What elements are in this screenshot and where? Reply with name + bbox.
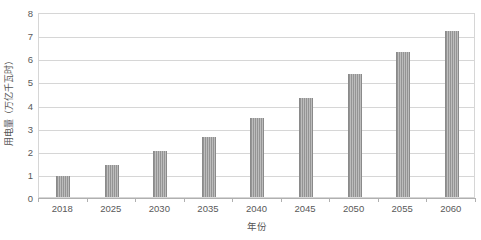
y-axis-tick-label: 7 (28, 31, 33, 42)
bar[interactable] (56, 176, 70, 197)
x-axis-tick-label: 2050 (343, 203, 364, 214)
bars-layer (39, 14, 474, 197)
bar-slot (282, 14, 331, 197)
x-axis-tick (232, 198, 233, 202)
x-axis-tick-label: 2025 (100, 203, 121, 214)
x-axis-tick-label: 2040 (246, 203, 267, 214)
x-axis-tick-label: 2055 (392, 203, 413, 214)
bar[interactable] (299, 98, 313, 197)
x-axis-tick (475, 198, 476, 202)
bar-slot (379, 14, 428, 197)
x-axis-tick-label: 2045 (294, 203, 315, 214)
y-axis-tick-label: 4 (28, 100, 33, 111)
bar[interactable] (250, 118, 264, 197)
x-axis-tick-label: 2060 (440, 203, 461, 214)
bar[interactable] (445, 31, 459, 198)
x-axis-tick (38, 198, 39, 202)
x-axis-tick-label: 2035 (197, 203, 218, 214)
y-axis-tick-labels: 012345678 (16, 8, 36, 198)
bar[interactable] (153, 151, 167, 197)
plot-area (38, 13, 475, 198)
y-axis-tick-label: 2 (28, 146, 33, 157)
x-axis-tick-label: 2030 (149, 203, 170, 214)
y-axis-tick-label: 6 (28, 54, 33, 65)
x-axis-tick (329, 198, 330, 202)
y-axis-tick-label: 5 (28, 77, 33, 88)
bar[interactable] (396, 52, 410, 197)
bar-slot (330, 14, 379, 197)
bar-slot (427, 14, 476, 197)
x-axis-tick (184, 198, 185, 202)
x-axis-tick (135, 198, 136, 202)
x-axis-tick-label: 2018 (52, 203, 73, 214)
x-axis-tick (378, 198, 379, 202)
bar[interactable] (202, 137, 216, 197)
bar-chart: 用电量（万亿千瓦时） 012345678 2018202520302035204… (0, 0, 481, 240)
y-axis-tick-label: 8 (28, 8, 33, 19)
y-axis-tick-label: 1 (28, 169, 33, 180)
y-axis-tick-label: 0 (28, 193, 33, 204)
bar-slot (88, 14, 137, 197)
bar[interactable] (105, 165, 119, 197)
x-axis-title: 年份 (38, 219, 475, 233)
x-axis-tick (426, 198, 427, 202)
x-axis-tick-labels: 201820252030203520402045205020552060 (38, 203, 475, 219)
bar-slot (185, 14, 234, 197)
y-axis-title-label: 用电量（万亿千瓦时） (2, 55, 15, 145)
bar-slot (233, 14, 282, 197)
y-axis-tick-label: 3 (28, 123, 33, 134)
bar-slot (136, 14, 185, 197)
y-axis-title: 用电量（万亿千瓦时） (0, 0, 16, 200)
x-axis-tick (281, 198, 282, 202)
x-axis-tick (87, 198, 88, 202)
bar[interactable] (348, 74, 362, 197)
bar-slot (39, 14, 88, 197)
